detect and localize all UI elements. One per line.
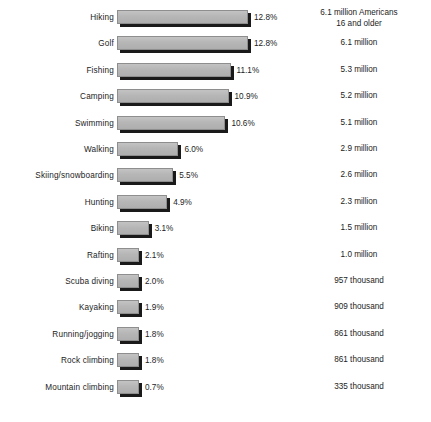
chart-row: Fishing11.1%5.3 million (0, 61, 431, 87)
category-label: Hiking (0, 13, 114, 23)
value-label: 6.0% (184, 145, 203, 155)
value-label: 3.1% (155, 224, 174, 234)
chart-row: Biking3.1%1.5 million (0, 219, 431, 245)
value-label: 12.8% (254, 13, 277, 23)
category-label: Rafting (0, 251, 114, 261)
value-label: 12.8% (254, 39, 277, 49)
bar (117, 353, 142, 370)
category-label: Skiing/snowboarding (0, 171, 114, 181)
category-label: Golf (0, 39, 114, 49)
chart-row: Running/jogging1.8%861 thousand (0, 325, 431, 351)
bar-fill (117, 168, 173, 182)
bar-fill (117, 195, 167, 209)
value-label: 1.8% (145, 356, 164, 366)
bar-fill (117, 327, 139, 341)
category-label: Mountain climbing (0, 383, 114, 393)
chart-row: Camping10.9%5.2 million (0, 87, 431, 113)
chart-row: Rock climbing1.8%861 thousand (0, 351, 431, 377)
annotation-label: 2.6 million (287, 170, 431, 181)
chart-row: Hiking12.8%6.1 million Americans 16 and … (0, 8, 431, 34)
category-label: Hunting (0, 198, 114, 208)
bar (117, 89, 232, 106)
annotation-label: 5.1 million (287, 118, 431, 129)
bar (117, 36, 251, 53)
annotation-label: 1.0 million (287, 250, 431, 261)
annotation-label: 335 thousand (287, 382, 431, 393)
annotation-label: 957 thousand (287, 276, 431, 287)
bar (117, 327, 142, 344)
chart-row: Kayaking1.9%909 thousand (0, 298, 431, 324)
annotation-label: 5.3 million (287, 65, 431, 76)
value-label: 4.9% (173, 198, 192, 208)
bar (117, 116, 228, 133)
category-label: Scuba diving (0, 277, 114, 287)
chart-row: Skiing/snowboarding5.5%2.6 million (0, 166, 431, 192)
category-label: Swimming (0, 119, 114, 129)
bar-fill (117, 274, 139, 288)
chart-row: Swimming10.6%5.1 million (0, 114, 431, 140)
annotation-label: 909 thousand (287, 302, 431, 313)
bar (117, 274, 142, 291)
category-label: Kayaking (0, 303, 114, 313)
bar-fill (117, 353, 139, 367)
value-label: 11.1% (237, 66, 260, 76)
bar-fill (117, 248, 139, 262)
bar (117, 248, 142, 265)
annotation-label: 1.5 million (287, 223, 431, 234)
chart-row: Rafting2.1%1.0 million (0, 246, 431, 272)
bar-fill (117, 221, 149, 235)
annotation-label: 6.1 million Americans 16 and older (287, 8, 431, 29)
bar (117, 380, 142, 397)
bar-fill (117, 63, 231, 77)
bar (117, 221, 152, 238)
annotation-label: 2.9 million (287, 144, 431, 155)
chart-row: Mountain climbing0.7%335 thousand (0, 378, 431, 404)
annotation-label: 6.1 million (287, 38, 431, 49)
category-label: Biking (0, 224, 114, 234)
bar (117, 300, 142, 317)
category-label: Rock climbing (0, 356, 114, 366)
bar (117, 10, 251, 27)
bar-fill (117, 89, 229, 103)
category-label: Fishing (0, 66, 114, 76)
chart-row: Golf12.8%6.1 million (0, 34, 431, 60)
category-label: Running/jogging (0, 330, 114, 340)
annotation-label: 861 thousand (287, 329, 431, 340)
value-label: 1.8% (145, 330, 164, 340)
annotation-label: 5.2 million (287, 91, 431, 102)
value-label: 0.7% (145, 383, 164, 393)
chart-row: Scuba diving2.0%957 thousand (0, 272, 431, 298)
category-label: Camping (0, 92, 114, 102)
bar (117, 142, 181, 159)
bar-fill (117, 10, 248, 24)
chart-row: Hunting4.9%2.3 million (0, 193, 431, 219)
value-label: 5.5% (179, 171, 198, 181)
bar-fill (117, 116, 225, 130)
bar (117, 168, 176, 185)
value-label: 2.1% (145, 251, 164, 261)
value-label: 2.0% (145, 277, 164, 287)
bar-fill (117, 380, 139, 394)
annotation-label: 2.3 million (287, 197, 431, 208)
bar-fill (117, 36, 248, 50)
chart-row: Walking6.0%2.9 million (0, 140, 431, 166)
bar-fill (117, 142, 178, 156)
category-label: Walking (0, 145, 114, 155)
bar (117, 195, 170, 212)
horizontal-bar-chart: Hiking12.8%6.1 million Americans 16 and … (0, 0, 431, 422)
value-label: 1.9% (145, 303, 164, 313)
value-label: 10.9% (235, 92, 258, 102)
bar-fill (117, 300, 139, 314)
bar (117, 63, 234, 80)
value-label: 10.6% (231, 119, 254, 129)
annotation-label: 861 thousand (287, 355, 431, 366)
